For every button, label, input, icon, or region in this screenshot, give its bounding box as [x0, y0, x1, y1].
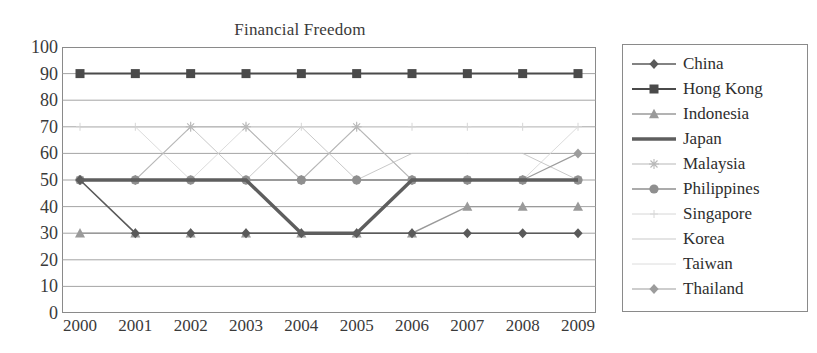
legend-key-plus-icon [631, 205, 677, 223]
legend-item-label: Hong Kong [683, 80, 763, 97]
legend-key-circle-icon [631, 180, 677, 198]
legend-item-singapore[interactable]: Singapore [623, 201, 807, 226]
x-axis-tick-label: 2001 [118, 316, 152, 336]
y-axis-tick-label: 80 [2, 91, 58, 109]
legend-item-china[interactable]: China [623, 51, 807, 76]
y-axis-tick-label: 0 [2, 304, 58, 322]
data-point-diamond [463, 228, 472, 238]
legend-item-japan[interactable]: Japan [623, 126, 807, 151]
legend-item-label: Japan [683, 130, 722, 147]
legend-item-label: Korea [683, 230, 725, 247]
y-axis-tick-label: 30 [2, 224, 58, 242]
x-axis-tick-label: 2006 [395, 316, 429, 336]
x-axis-tick-label: 2007 [450, 316, 484, 336]
series-line [80, 153, 578, 180]
data-point-square [131, 69, 140, 78]
y-axis-tick-label: 60 [2, 144, 58, 162]
data-point-square [408, 69, 417, 78]
data-point-square [650, 84, 659, 93]
data-point-diamond [573, 148, 582, 158]
data-point-star [241, 122, 251, 132]
legend-item-taiwan[interactable]: Taiwan [623, 251, 807, 276]
chart-container: Financial Freedom 0102030405060708090100… [0, 0, 817, 353]
legend-key-none-icon [631, 130, 677, 148]
y-axis: 0102030405060708090100 [0, 47, 58, 313]
y-axis-tick-label: 90 [2, 65, 58, 83]
data-point-square [574, 69, 583, 78]
data-point-star [649, 159, 659, 169]
data-point-plus [650, 210, 658, 218]
legend-item-malaysia[interactable]: Malaysia [623, 151, 807, 176]
x-axis-tick-label: 2003 [229, 316, 263, 336]
data-point-square [186, 69, 195, 78]
legend-key-none-icon [631, 230, 677, 248]
chart-plot-svg [62, 47, 596, 313]
legend-key-star-icon [631, 155, 677, 173]
data-point-circle [297, 175, 306, 184]
legend-item-label: Singapore [683, 205, 752, 222]
legend-item-philippines[interactable]: Philippines [623, 176, 807, 201]
x-axis-tick-label: 2008 [506, 316, 540, 336]
data-point-square [352, 69, 361, 78]
legend-item-hong-kong[interactable]: Hong Kong [623, 76, 807, 101]
y-axis-tick-label: 20 [2, 251, 58, 269]
data-point-diamond [649, 284, 658, 294]
x-axis-tick-label: 2009 [561, 316, 595, 336]
series-hong-kong [76, 69, 583, 78]
x-axis-tick-label: 2002 [174, 316, 208, 336]
series-line [80, 207, 578, 234]
legend-key-square-icon [631, 80, 677, 98]
data-point-square [518, 69, 527, 78]
data-point-plus [463, 123, 471, 131]
x-axis: 2000200120022003200420052006200720082009 [62, 316, 596, 346]
legend-item-indonesia[interactable]: Indonesia [623, 101, 807, 126]
chart-legend: ChinaHong KongIndonesiaJapanMalaysiaPhil… [622, 44, 808, 312]
data-point-diamond [573, 228, 582, 238]
data-point-square [76, 69, 85, 78]
data-point-diamond [649, 59, 658, 69]
data-point-star [352, 122, 362, 132]
legend-item-label: Thailand [683, 280, 743, 297]
x-axis-tick-label: 2005 [340, 316, 374, 336]
y-axis-tick-label: 40 [2, 198, 58, 216]
y-axis-tick-label: 100 [2, 38, 58, 56]
data-point-plus [408, 123, 416, 131]
legend-item-label: China [683, 55, 724, 72]
y-axis-tick-label: 70 [2, 118, 58, 136]
y-axis-tick-label: 50 [2, 171, 58, 189]
chart-title: Financial Freedom [0, 20, 600, 40]
legend-key-triangle-icon [631, 105, 677, 123]
data-point-square [242, 69, 251, 78]
legend-key-none-icon [631, 255, 677, 273]
data-point-square [463, 69, 472, 78]
legend-item-korea[interactable]: Korea [623, 226, 807, 251]
legend-item-label: Taiwan [683, 255, 733, 272]
data-point-circle [649, 184, 658, 193]
legend-item-label: Philippines [683, 180, 760, 197]
data-point-diamond [518, 228, 527, 238]
data-point-square [297, 69, 306, 78]
legend-key-diamond-icon [631, 55, 677, 73]
data-point-circle [352, 175, 361, 184]
y-axis-tick-label: 10 [2, 277, 58, 295]
legend-item-thailand[interactable]: Thailand [623, 276, 807, 301]
x-axis-tick-label: 2000 [63, 316, 97, 336]
x-axis-tick-label: 2004 [284, 316, 318, 336]
legend-key-diamond-icon [631, 280, 677, 298]
legend-item-label: Indonesia [683, 105, 749, 122]
data-point-plus [519, 123, 527, 131]
legend-item-label: Malaysia [683, 155, 745, 172]
